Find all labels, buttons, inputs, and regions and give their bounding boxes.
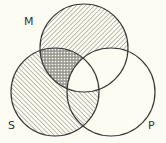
venn-diagram: M S P [0,0,166,143]
label-p: P [148,119,155,132]
label-m: M [24,15,34,28]
label-s: S [8,119,15,132]
